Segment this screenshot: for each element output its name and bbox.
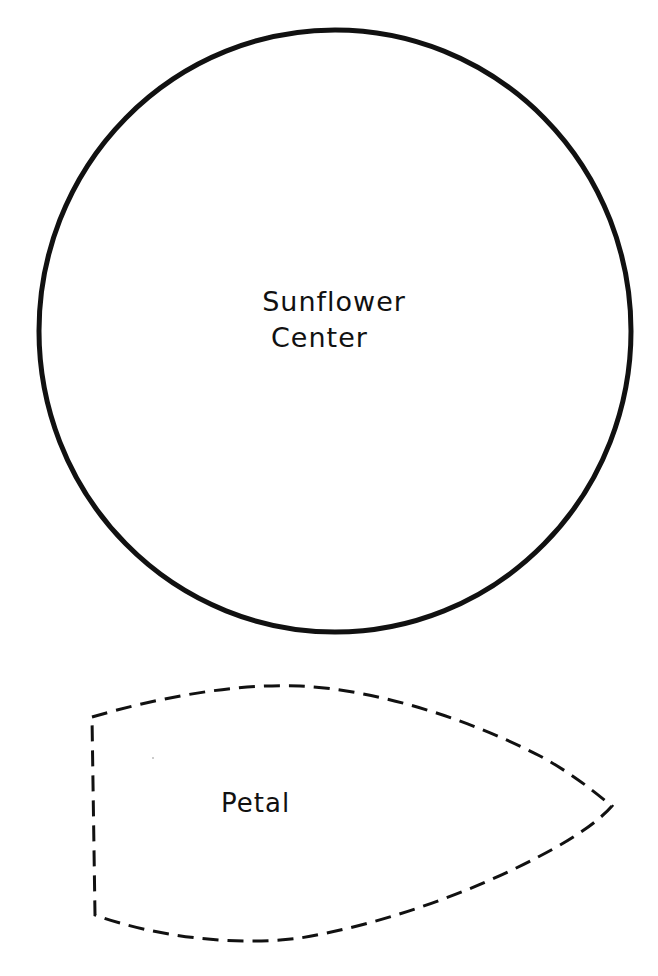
sunflower-center-label: Sunflower Center bbox=[234, 284, 434, 356]
paper-speck bbox=[152, 757, 154, 759]
petal-label: Petal bbox=[221, 787, 290, 819]
sunflower-center-label-line1: Sunflower bbox=[234, 284, 434, 320]
template-page: Sunflower Center Petal bbox=[0, 0, 658, 976]
petal-outline bbox=[92, 686, 612, 941]
sunflower-center-label-line2: Center bbox=[234, 320, 434, 356]
template-artwork bbox=[0, 0, 658, 976]
